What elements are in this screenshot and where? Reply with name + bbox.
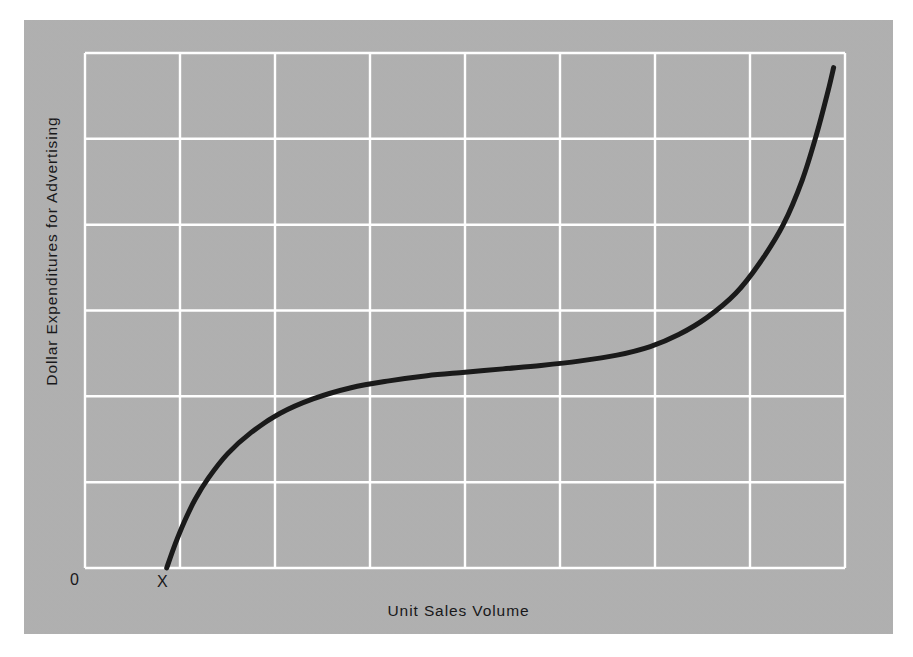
plot-area: [85, 53, 845, 568]
x-axis-title: Unit Sales Volume: [24, 602, 893, 620]
chart-panel: Dollar Expenditures for Advertising Unit…: [24, 20, 893, 634]
chart-svg: [85, 53, 845, 568]
data-curve-advertising-response: [167, 68, 834, 568]
y-axis-title: Dollar Expenditures for Advertising: [43, 41, 61, 461]
figure-root: Dollar Expenditures for Advertising Unit…: [0, 0, 913, 657]
x-threshold-label: X: [157, 573, 168, 591]
origin-label: 0: [70, 571, 79, 589]
